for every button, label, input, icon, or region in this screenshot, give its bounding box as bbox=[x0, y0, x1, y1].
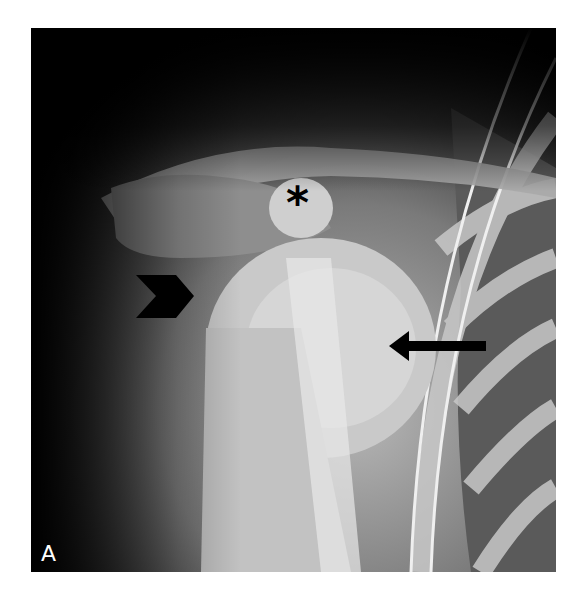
xray-illustration: * bbox=[31, 28, 556, 572]
asterisk-marker: * bbox=[286, 177, 309, 228]
panel-label: A bbox=[41, 541, 56, 566]
xray-image: * A bbox=[31, 28, 556, 572]
